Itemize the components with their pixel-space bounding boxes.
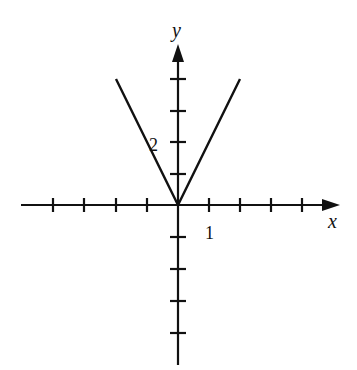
x-tick-label-1: 1 xyxy=(205,223,214,243)
y-tick-label-2: 2 xyxy=(149,135,158,155)
x-axis-label: x xyxy=(327,210,337,232)
y-axis-label: y xyxy=(170,19,181,42)
y-axis-arrow-icon xyxy=(172,44,184,62)
coordinate-plane: y x 1 2 xyxy=(0,0,357,370)
